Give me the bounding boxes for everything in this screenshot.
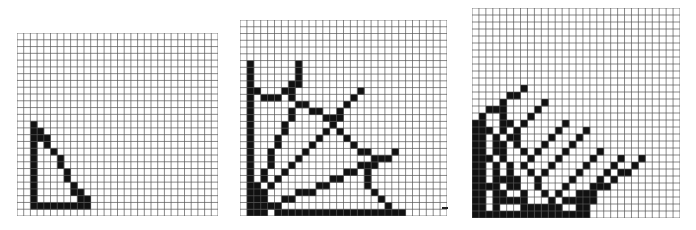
filled-cell bbox=[295, 81, 302, 88]
filled-cell bbox=[597, 148, 604, 155]
filled-cell bbox=[507, 183, 514, 190]
filled-cell bbox=[247, 67, 254, 74]
filled-cell bbox=[514, 211, 521, 218]
filled-cell bbox=[625, 169, 632, 176]
filled-cell bbox=[30, 148, 37, 155]
filled-cell bbox=[247, 202, 254, 209]
filled-cell bbox=[486, 211, 493, 218]
grid-panel-3 bbox=[472, 8, 680, 218]
filled-cell bbox=[337, 209, 344, 216]
filled-cell bbox=[261, 175, 268, 182]
filled-cell bbox=[309, 142, 316, 149]
filled-cell bbox=[84, 196, 91, 203]
filled-cell bbox=[472, 134, 479, 141]
filled-cell bbox=[514, 197, 521, 204]
filled-cell bbox=[295, 155, 302, 162]
filled-cell bbox=[514, 183, 521, 190]
filled-cell bbox=[288, 162, 295, 169]
filled-cell bbox=[247, 121, 254, 128]
filled-cell bbox=[541, 204, 548, 211]
filled-cell bbox=[247, 81, 254, 88]
filled-cell bbox=[500, 211, 507, 218]
filled-cell bbox=[493, 197, 500, 204]
filled-cell bbox=[507, 169, 514, 176]
filled-cell bbox=[493, 183, 500, 190]
filled-cell bbox=[385, 202, 392, 209]
filled-cell bbox=[288, 209, 295, 216]
filled-cell bbox=[569, 176, 576, 183]
filled-cell bbox=[57, 202, 64, 209]
filled-cell bbox=[30, 121, 37, 128]
filled-cell bbox=[261, 189, 268, 196]
filled-cell bbox=[77, 202, 84, 209]
filled-cell bbox=[604, 183, 611, 190]
filled-cell bbox=[295, 209, 302, 216]
filled-cell bbox=[247, 175, 254, 182]
filled-cell bbox=[378, 155, 385, 162]
filled-cell bbox=[500, 113, 507, 120]
filled-cell bbox=[507, 162, 514, 169]
filled-cell bbox=[364, 148, 371, 155]
filled-cell bbox=[507, 211, 514, 218]
filled-cell bbox=[64, 202, 71, 209]
filled-cell bbox=[30, 182, 37, 189]
filled-cell bbox=[638, 155, 645, 162]
filled-cell bbox=[541, 190, 548, 197]
filled-cell bbox=[44, 141, 51, 148]
filled-cell bbox=[268, 94, 275, 101]
filled-cell bbox=[514, 127, 521, 134]
filled-cell bbox=[479, 162, 486, 169]
filled-cell bbox=[275, 135, 282, 142]
filled-cell bbox=[392, 209, 399, 216]
filled-cell bbox=[71, 182, 78, 189]
filled-cell bbox=[357, 88, 364, 95]
filled-cell bbox=[247, 108, 254, 115]
filled-cell bbox=[357, 209, 364, 216]
filled-cell bbox=[57, 162, 64, 169]
filled-cell bbox=[364, 209, 371, 216]
filled-cell bbox=[500, 120, 507, 127]
filled-cell bbox=[479, 183, 486, 190]
filled-cell bbox=[576, 197, 583, 204]
filled-cell bbox=[611, 162, 618, 169]
filled-cell bbox=[316, 209, 323, 216]
filled-cell bbox=[493, 141, 500, 148]
filled-cell bbox=[261, 209, 268, 216]
filled-cell bbox=[261, 94, 268, 101]
filled-cell bbox=[247, 209, 254, 216]
filled-cell bbox=[590, 183, 597, 190]
filled-cell bbox=[247, 61, 254, 68]
filled-cell bbox=[590, 155, 597, 162]
filled-cell bbox=[247, 162, 254, 169]
filled-cell bbox=[534, 204, 541, 211]
filled-cell bbox=[309, 209, 316, 216]
filled-cell bbox=[479, 169, 486, 176]
filled-cell bbox=[618, 169, 625, 176]
filled-cell bbox=[527, 211, 534, 218]
filled-cell bbox=[590, 190, 597, 197]
filled-cell bbox=[30, 189, 37, 196]
filled-cell bbox=[247, 182, 254, 189]
filled-cell bbox=[371, 162, 378, 169]
filled-cell bbox=[385, 209, 392, 216]
filled-cell bbox=[583, 190, 590, 197]
filled-cell bbox=[562, 120, 569, 127]
filled-cell bbox=[268, 162, 275, 169]
filled-cell bbox=[479, 134, 486, 141]
filled-cell bbox=[500, 141, 507, 148]
filled-cell bbox=[479, 120, 486, 127]
filled-cell bbox=[316, 108, 323, 115]
filled-cell bbox=[555, 127, 562, 134]
filled-cell bbox=[493, 162, 500, 169]
filled-cell bbox=[295, 74, 302, 81]
filled-cell bbox=[337, 175, 344, 182]
filled-cell bbox=[493, 176, 500, 183]
filled-cell bbox=[514, 176, 521, 183]
filled-cell bbox=[261, 196, 268, 203]
filled-cell bbox=[364, 182, 371, 189]
filled-cell bbox=[30, 175, 37, 182]
filled-cell bbox=[500, 190, 507, 197]
filled-cell bbox=[555, 190, 562, 197]
filled-cell bbox=[555, 155, 562, 162]
filled-cell bbox=[514, 92, 521, 99]
